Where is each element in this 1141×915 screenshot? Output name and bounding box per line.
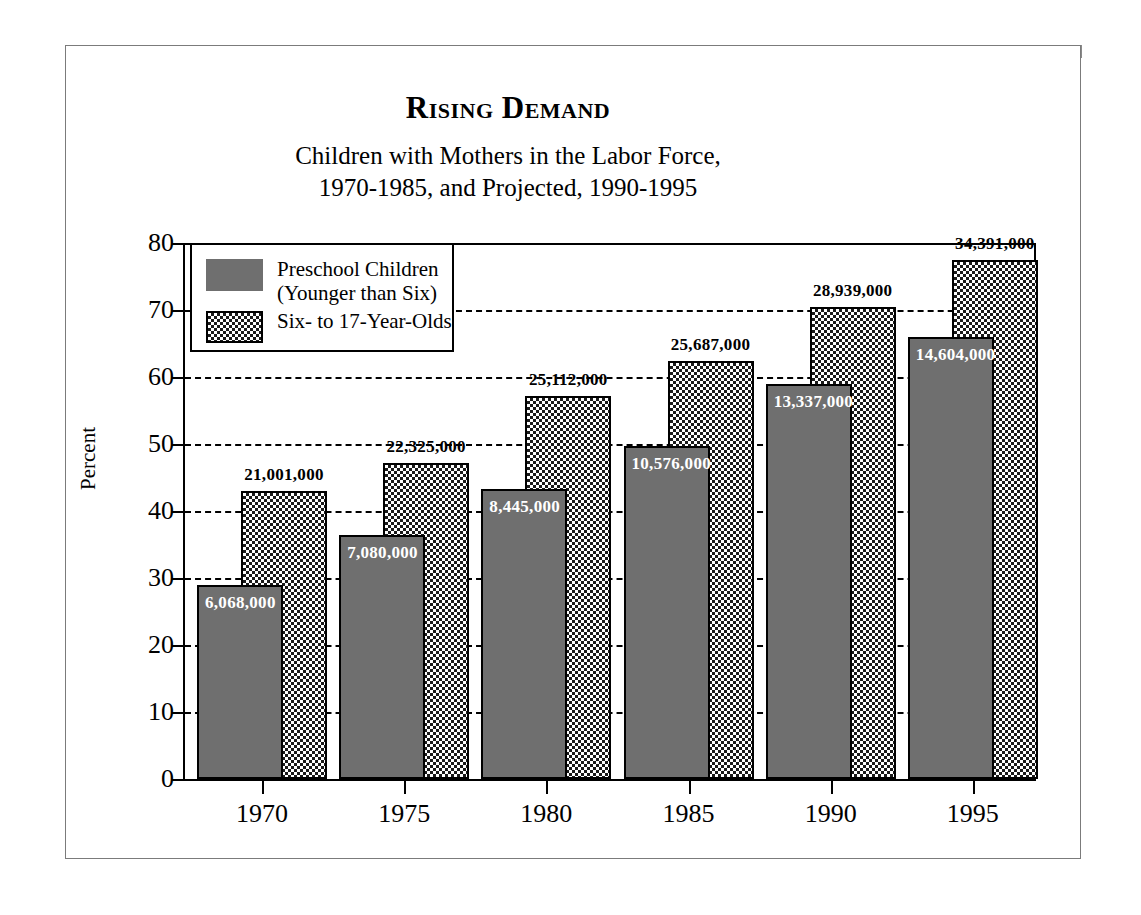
x-axis-tick-label: 1975	[378, 799, 430, 829]
bar-value-label-preschool: 14,604,000	[916, 345, 1072, 365]
x-tick-mark	[404, 781, 406, 794]
bar-value-label-preschool: 8,445,000	[489, 497, 645, 517]
x-tick-mark	[262, 781, 264, 794]
x-axis-tick-label: 1970	[236, 799, 288, 829]
legend-item-school-age: Six- to 17-Year-Olds	[206, 309, 452, 343]
bar-preschool: 6,068,000	[197, 585, 283, 779]
y-axis-tick-label: 70	[114, 295, 182, 325]
bar-preschool: 13,337,000	[766, 384, 852, 779]
chart-title: Rising Demand	[0, 90, 1016, 126]
bar-preschool: 8,445,000	[481, 489, 567, 779]
x-axis-tick-label: 1980	[520, 799, 572, 829]
x-axis-tick-label: 1985	[663, 799, 715, 829]
x-tick-mark	[546, 781, 548, 794]
x-axis-tick-label: 1995	[947, 799, 999, 829]
bar-value-label-preschool: 10,576,000	[632, 454, 788, 474]
legend-item-preschool-label: Preschool Children (Younger than Six)	[277, 257, 439, 305]
bar-value-label-preschool: 7,080,000	[347, 543, 503, 563]
legend-item-preschool: Preschool Children (Younger than Six)	[206, 257, 439, 305]
x-axis-line	[183, 779, 1036, 781]
x-tick-mark	[689, 781, 691, 794]
x-tick-mark	[831, 781, 833, 794]
bar-value-label-six-to-17: 34,391,000	[926, 234, 1064, 254]
chart-subtitle: Children with Mothers in the Labor Force…	[0, 140, 1016, 204]
y-axis-tick-label: 20	[114, 630, 182, 660]
solid-gray-swatch-icon	[206, 259, 263, 291]
y-axis-tick-label: 10	[114, 697, 182, 727]
y-tick-mark-right	[1024, 779, 1036, 781]
bar-value-label-six-to-17: 28,939,000	[784, 281, 922, 301]
y-axis-title: Percent	[76, 427, 101, 490]
x-tick-mark	[973, 781, 975, 794]
bar-value-label-preschool: 6,068,000	[205, 593, 361, 613]
bar-preschool: 14,604,000	[908, 337, 994, 779]
bar-preschool: 7,080,000	[339, 535, 425, 779]
y-axis-tick-label: 0	[114, 764, 182, 794]
x-axis-tick-label: 1990	[805, 799, 857, 829]
bar-value-label-six-to-17: 22,325,000	[357, 437, 495, 457]
legend: Preschool Children (Younger than Six) Si…	[190, 243, 454, 352]
legend-item-school-age-label: Six- to 17-Year-Olds	[277, 309, 452, 333]
plot-area: 01020304050607080 21,001,0006,068,00022,…	[183, 243, 1036, 781]
y-axis-tick-label: 80	[114, 228, 182, 258]
chart-subtitle-line-1: Children with Mothers in the Labor Force…	[0, 140, 1016, 172]
bar-value-label-preschool: 13,337,000	[774, 392, 930, 412]
bar-value-label-six-to-17: 25,687,000	[642, 335, 780, 355]
y-axis-tick-label: 30	[114, 563, 182, 593]
y-axis-tick-label: 40	[114, 496, 182, 526]
bar-value-label-six-to-17: 25,112,000	[499, 370, 637, 390]
y-axis-tick-label: 50	[114, 429, 182, 459]
bar-preschool: 10,576,000	[624, 446, 710, 779]
bar-value-label-six-to-17: 21,001,000	[215, 465, 353, 485]
chart-subtitle-line-2: 1970-1985, and Projected, 1990-1995	[0, 172, 1016, 204]
checkered-swatch-icon	[206, 311, 263, 343]
chart-page: Rising Demand Children with Mothers in t…	[0, 0, 1141, 915]
y-axis-tick-label: 60	[114, 362, 182, 392]
